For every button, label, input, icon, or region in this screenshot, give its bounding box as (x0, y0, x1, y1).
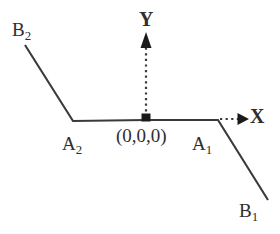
origin-coordinate-label: (0,0,0) (116, 126, 167, 145)
point-label-a1-letter: A (192, 133, 206, 154)
x-axis-arrowhead-icon (238, 113, 250, 125)
diagram-vector-layer (0, 0, 280, 234)
point-label-a2: A2 (62, 134, 82, 157)
point-label-b1: B1 (239, 201, 258, 224)
chain-left-polyline (25, 45, 146, 121)
point-label-b1-subscript: 1 (252, 209, 258, 224)
y-axis-arrowhead-icon (141, 32, 152, 48)
diagram-canvas: Y X (0,0,0) B2 A2 A1 B1 (0, 0, 280, 234)
point-label-b2-letter: B (12, 19, 25, 40)
point-label-a1: A1 (192, 134, 212, 157)
point-label-b2-subscript: 2 (25, 28, 31, 43)
point-label-b1-letter: B (239, 200, 252, 221)
axis-label-y: Y (139, 9, 153, 29)
origin-marker-icon (142, 114, 151, 122)
point-label-b2: B2 (12, 20, 31, 43)
axis-label-x: X (250, 106, 264, 126)
point-label-a1-subscript: 1 (206, 142, 212, 157)
point-label-a2-letter: A (62, 133, 76, 154)
point-label-a2-subscript: 2 (76, 142, 82, 157)
